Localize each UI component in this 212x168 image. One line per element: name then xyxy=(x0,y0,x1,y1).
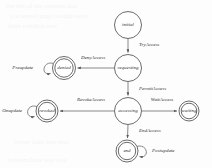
node-initial[interactable]: initial xyxy=(115,12,142,39)
edge-label-permit-access: PermitAccess xyxy=(138,86,166,91)
edge-wait-access: WaitAccess xyxy=(142,97,178,111)
edge-revoke-access: RevokeAccess xyxy=(60,97,115,111)
diagram-canvas: the the of the content and a scanned pag… xyxy=(0,0,212,168)
node-label-revoked: revoked xyxy=(39,108,55,113)
state-diagram-svg: TryAccess DenyAccess PermitAccess Revoke… xyxy=(0,0,212,168)
edge-label-deny-access: DenyAccess xyxy=(80,55,105,60)
edge-label-try-access: TryAccess xyxy=(139,42,159,47)
node-label-denied: denied xyxy=(57,65,71,70)
node-denied[interactable]: denied xyxy=(53,57,76,80)
edge-permit-access: PermitAccess xyxy=(128,82,166,96)
node-label-initial: initial xyxy=(122,22,135,27)
self-loop-postupdate: Postupdate xyxy=(137,146,176,157)
node-revoked[interactable]: revoked xyxy=(36,100,58,122)
self-loop-label-onupdate: Onupdate xyxy=(2,108,23,113)
self-loop-preupdate: Preupdate xyxy=(11,63,53,74)
self-loop-onupdate: Onupdate xyxy=(2,106,37,117)
edge-label-wait-access: WaitAccess xyxy=(151,97,174,102)
self-loop-label-postupdate: Postupdate xyxy=(151,148,175,153)
edge-try-access: TryAccess xyxy=(128,39,159,53)
node-label-end: end xyxy=(123,148,131,153)
node-label-requesting: requesting xyxy=(118,65,139,70)
node-end[interactable]: end xyxy=(116,140,138,162)
edge-deny-access: DenyAccess xyxy=(78,55,115,68)
edge-label-revoke-access: RevokeAccess xyxy=(76,97,105,102)
node-requesting[interactable]: requesting xyxy=(115,55,142,82)
self-loop-label-preupdate: Preupdate xyxy=(11,65,33,70)
node-waiting[interactable]: waiting xyxy=(179,101,199,121)
edge-end-access: EndAccess xyxy=(128,125,161,139)
node-accessing[interactable]: accessing xyxy=(115,98,142,125)
node-label-accessing: accessing xyxy=(118,108,138,113)
edge-label-end-access: EndAccess xyxy=(138,128,161,133)
node-label-waiting: waiting xyxy=(181,108,197,113)
